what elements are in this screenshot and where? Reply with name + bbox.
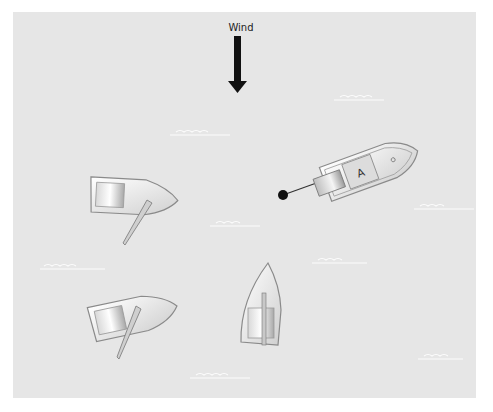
anchor-ball-icon xyxy=(278,190,288,200)
boat-upper-left xyxy=(89,177,179,245)
boat-center xyxy=(241,263,281,345)
wind-arrow-icon xyxy=(228,36,247,93)
boat-lower-left xyxy=(87,289,180,359)
boat-scene: A xyxy=(0,0,493,412)
oar-icon xyxy=(262,293,266,345)
boat-a: A xyxy=(278,134,424,205)
